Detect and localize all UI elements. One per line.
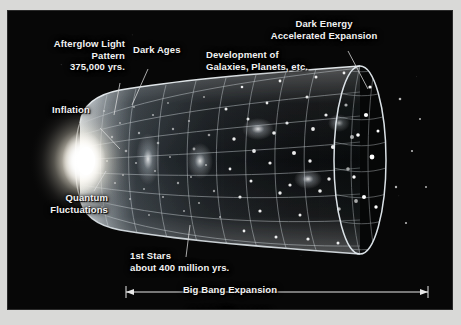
cosmic-timeline-figure: Afterglow Light Pattern 375,000 yrs. Inf… [8, 11, 452, 309]
label-duration-years: 13.77 billion years [8, 307, 452, 309]
dark-ages-text: Dark Ages [133, 44, 181, 56]
label-afterglow-light-pattern: Afterglow Light Pattern 375,000 yrs. [54, 38, 125, 73]
quantum-line-2: Fluctuations [50, 204, 108, 216]
label-inflation: Inflation [52, 104, 90, 116]
label-development-of-galaxies: Development of Galaxies, Planets, etc. [206, 49, 308, 72]
label-first-stars: 1st Stars about 400 million yrs. [130, 250, 229, 273]
present-day-rim [334, 66, 427, 254]
label-dark-ages: Dark Ages [133, 44, 181, 56]
dark-energy-line-1: Dark Energy [244, 18, 404, 30]
first-stars-line-2: about 400 million yrs. [130, 262, 229, 274]
first-stars-line-1: 1st Stars [130, 250, 229, 262]
afterglow-line-1: Afterglow Light [54, 38, 125, 50]
label-dark-energy: Dark Energy Accelerated Expansion [244, 18, 404, 41]
outer-field-galaxies [395, 98, 427, 224]
quantum-line-1: Quantum [50, 192, 108, 204]
dark-energy-line-2: Accelerated Expansion [244, 30, 404, 42]
afterglow-line-2: Pattern [54, 50, 125, 62]
inflation-text: Inflation [52, 104, 90, 116]
development-line-1: Development of [206, 49, 308, 61]
label-big-bang-expansion: Big Bang Expansion [8, 284, 452, 296]
afterglow-line-3: 375,000 yrs. [54, 61, 125, 73]
development-line-2: Galaxies, Planets, etc. [206, 61, 308, 73]
label-quantum-fluctuations: Quantum Fluctuations [50, 192, 108, 215]
